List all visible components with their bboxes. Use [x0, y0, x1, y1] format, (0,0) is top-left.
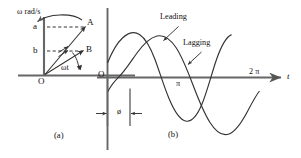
panel-a-origin-label: O	[38, 77, 45, 86]
panel-b-caption: (b)	[168, 130, 178, 139]
panel-b-origin-label: O	[98, 70, 105, 79]
tick-label-pi: π	[176, 80, 180, 88]
phasor-a-label: A	[87, 18, 94, 27]
panel-a-caption: (a)	[54, 131, 64, 140]
projection-a-label: a	[33, 22, 37, 31]
angular-velocity-label: ω rad/s	[17, 8, 40, 16]
axis-label-t: t	[287, 72, 290, 81]
angle-omega-t-label: ωt	[61, 64, 69, 72]
lagging-label: Lagging	[183, 39, 210, 47]
tick-label-2pi: 2 π	[249, 68, 259, 76]
projection-b-label: b	[33, 46, 38, 55]
leading-label: Leading	[160, 13, 187, 21]
lagging-pointer-arrow	[188, 52, 202, 65]
panel-a-graphics	[0, 0, 301, 158]
phasor-b-label: B	[86, 45, 92, 54]
phase-angle-label: ø	[117, 108, 121, 116]
leading-pointer-arrow	[164, 27, 179, 41]
figure-container: ω rad/s A B a b ωt O (a) O π 2 π t Leadi…	[0, 0, 301, 158]
